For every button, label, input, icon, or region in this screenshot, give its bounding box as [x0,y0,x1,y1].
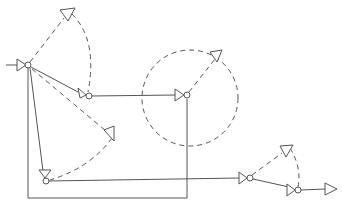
dashed-edges [30,14,299,187]
node-triangle-icon [239,172,247,184]
edge-n4-n5 [49,178,240,181]
node-n2[interactable] [78,88,92,99]
terminal-mid-triangle-icon[interactable] [104,126,114,141]
node-triangle-icon [287,184,295,196]
node-circle-icon [25,62,31,68]
dashed-n3-circle [189,59,215,92]
dashed-mid-n4 [50,138,112,180]
node-triangle-icon [39,170,51,178]
dashed-top-n2 [72,14,91,92]
node-circle-icon [184,92,190,98]
node-n5[interactable] [239,172,253,184]
node-n3[interactable] [175,89,190,101]
dashed-right-n6 [290,148,299,187]
node-triangle-icon [78,88,86,98]
edge-n6-outlet [301,189,325,190]
edge-n2-n3 [91,95,177,96]
edge-n5-n6 [253,179,289,187]
dashed-n5-right [252,153,282,175]
node-circle-icon [247,175,253,181]
solid-edges [6,65,325,198]
dashed-n1-mid [32,69,106,131]
network-diagram [0,0,342,212]
dashed-circle-region [142,50,238,146]
terminal-circle-triangle-icon[interactable] [210,50,222,62]
node-n1[interactable] [25,62,31,68]
outlet-triangle-icon[interactable] [325,183,337,195]
edge-n1-n4 [30,68,43,171]
dashed-n1-top [30,18,64,62]
node-circle-icon [295,187,301,193]
node-circle-icon [43,178,49,184]
node-circle-icon [86,93,92,99]
node-n6[interactable] [287,184,301,196]
node-n4[interactable] [39,170,51,184]
terminal-right-triangle-icon[interactable] [280,145,293,157]
node-triangle-icon [175,89,184,101]
